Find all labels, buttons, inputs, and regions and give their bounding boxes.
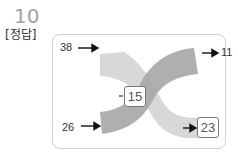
answer-value-box: 23 — [197, 117, 219, 138]
output-top-right: 11 — [221, 46, 232, 58]
input-top-left: 38 — [60, 41, 72, 53]
input-bottom-left: 26 — [62, 121, 74, 133]
center-value-box: 15 — [124, 86, 146, 107]
answer-label: [정답] — [5, 25, 36, 42]
